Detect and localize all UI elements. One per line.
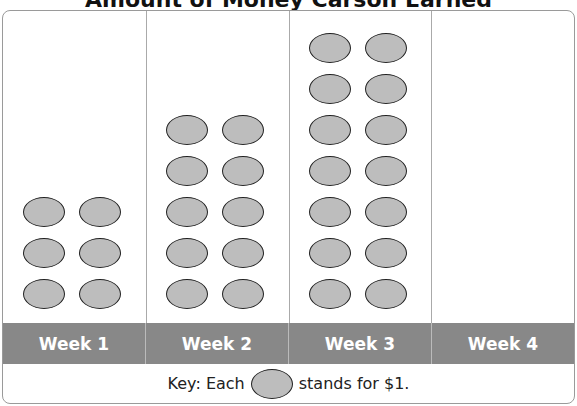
column-week-4 xyxy=(431,11,574,323)
coin-icon xyxy=(309,74,351,104)
coin-icon xyxy=(166,197,208,227)
coin-icon xyxy=(309,33,351,63)
label-week-4: Week 4 xyxy=(432,323,574,364)
coin-icon xyxy=(365,33,407,63)
coin-icon xyxy=(23,279,65,309)
coin-icon xyxy=(166,156,208,186)
coin-icon xyxy=(365,156,407,186)
coin-icon xyxy=(309,279,351,309)
coin-icon xyxy=(309,238,351,268)
coin-icon xyxy=(222,279,264,309)
coin-icon xyxy=(166,115,208,145)
coin-icon xyxy=(365,197,407,227)
label-week-3: Week 3 xyxy=(289,323,432,364)
coin-icon xyxy=(365,74,407,104)
column-week-1 xyxy=(3,11,147,323)
pictograph-frame: Week 1 Week 2 Week 3 Week 4 Key: Each st… xyxy=(2,10,575,404)
coin-icon xyxy=(79,279,121,309)
coin-icon xyxy=(23,197,65,227)
coin-icon xyxy=(222,115,264,145)
coin-icon xyxy=(251,369,293,399)
key-suffix: stands for $1. xyxy=(299,374,410,393)
coin-icon xyxy=(365,279,407,309)
coin-icon xyxy=(23,238,65,268)
label-week-2: Week 2 xyxy=(146,323,289,364)
coin-icon xyxy=(222,238,264,268)
coin-icon xyxy=(309,156,351,186)
coin-icon xyxy=(365,238,407,268)
key-legend: Key: Each stands for $1. xyxy=(3,364,574,403)
coin-icon xyxy=(166,279,208,309)
coin-icon xyxy=(79,197,121,227)
coin-icon xyxy=(365,115,407,145)
coin-icon xyxy=(222,197,264,227)
category-label-bar: Week 1 Week 2 Week 3 Week 4 xyxy=(3,323,574,364)
label-week-1: Week 1 xyxy=(3,323,146,364)
key-prefix: Key: Each xyxy=(168,374,245,393)
coin-icon xyxy=(222,156,264,186)
coin-icon xyxy=(309,197,351,227)
coin-icon xyxy=(166,238,208,268)
coin-icon xyxy=(79,238,121,268)
coin-icon xyxy=(309,115,351,145)
